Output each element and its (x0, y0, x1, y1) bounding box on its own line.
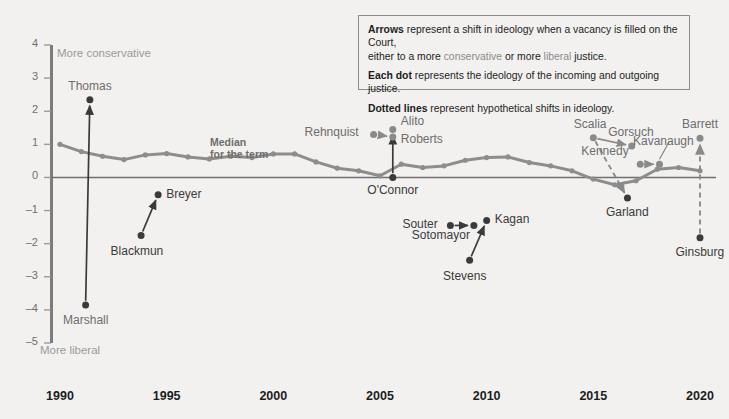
y-axis-tick: –1 (16, 204, 38, 216)
justice-dot (370, 131, 377, 138)
justice-dot (389, 134, 396, 141)
justice-label-ginsburg: Ginsburg (676, 246, 725, 259)
justice-label-kennedy: Kennedy (581, 145, 628, 158)
legend-arrows-text-d: justice. (571, 51, 606, 62)
x-axis-tick: 2005 (350, 390, 410, 403)
justice-dot (389, 126, 396, 133)
legend-arrows-text-a: represent a shift in ideology when a vac… (368, 24, 678, 48)
y-axis-tick: –2 (16, 237, 38, 249)
y-axis-tick: –4 (16, 303, 38, 315)
justice-label-sotomayor: Sotomayor (412, 229, 470, 242)
legend-dotted-text: represent hypothetical shifts in ideolog… (427, 103, 614, 114)
justice-dot (624, 194, 631, 201)
justice-dot (138, 232, 145, 239)
y-axis-tick: 4 (16, 38, 38, 50)
justice-dot (82, 301, 89, 308)
legend-dotted-bold: Dotted lines (368, 103, 427, 114)
x-axis-tick: 2010 (457, 390, 517, 403)
justice-label-kagan: Kagan (495, 213, 530, 226)
legend-arrows-text-b: either to a more (368, 51, 444, 62)
median-annotation-line2: for the term (210, 149, 268, 160)
y-axis-tick: 0 (16, 170, 38, 182)
legend-dot-bold: Each dot (368, 70, 412, 81)
justice-label-kavanaugh: Kavanaugh (633, 135, 694, 148)
justice-label-scalia: Scalia (574, 118, 607, 131)
legend-arrows-text-c: or more (502, 51, 544, 62)
justice-dot (483, 217, 490, 224)
median-annotation-line1: Median (210, 137, 246, 148)
more-conservative-label: More conservative (57, 47, 151, 59)
y-axis-tick: 2 (16, 104, 38, 116)
legend-line-arrows: Arrows represent a shift in ideology whe… (368, 23, 680, 63)
justice-label-rehnquist: Rehnquist (305, 126, 359, 139)
justice-dot (389, 174, 396, 181)
justice-label-garland: Garland (606, 206, 649, 219)
y-axis-tick: 1 (16, 137, 38, 149)
justice-label-breyer: Breyer (166, 188, 201, 201)
justice-label-oconnor: O'Connor (367, 184, 418, 197)
justice-label-stevens: Stevens (443, 270, 486, 283)
legend-conservative-word: conservative (444, 51, 502, 62)
justice-dot (656, 161, 663, 168)
justice-dot (155, 191, 162, 198)
legend-line-dots: Each dot represents the ideology of the … (368, 69, 680, 96)
justice-dot (637, 161, 644, 168)
justice-dot (697, 135, 704, 142)
x-axis-tick: 1995 (137, 390, 197, 403)
legend-line-dotted: Dotted lines represent hypothetical shif… (368, 102, 680, 115)
legend-liberal-word: liberal (544, 51, 572, 62)
x-axis-tick: 1990 (30, 390, 90, 403)
legend-dot-text: represents the ideology of the incoming … (368, 70, 659, 94)
justice-label-blackmun: Blackmun (111, 245, 164, 258)
justice-dot (86, 96, 93, 103)
justice-label-alito: Alito (401, 115, 424, 128)
justice-label-barrett: Barrett (682, 118, 718, 131)
y-axis-tick: –5 (16, 336, 38, 348)
y-axis-tick: 3 (16, 71, 38, 83)
justice-label-marshall: Marshall (63, 314, 108, 327)
justice-label-thomas: Thomas (68, 80, 111, 93)
justice-dot (466, 257, 473, 264)
legend-arrows-bold: Arrows (368, 24, 404, 35)
justice-label-roberts: Roberts (401, 133, 443, 146)
x-axis-tick: 2000 (243, 390, 303, 403)
legend-box: Arrows represent a shift in ideology whe… (358, 15, 690, 90)
more-liberal-label: More liberal (40, 344, 100, 356)
justice-dot (470, 222, 477, 229)
y-axis-tick: –3 (16, 270, 38, 282)
x-axis-tick: 2015 (563, 390, 623, 403)
justice-dot (590, 134, 597, 141)
x-axis-tick: 2020 (670, 390, 729, 403)
justice-dot (697, 234, 704, 241)
